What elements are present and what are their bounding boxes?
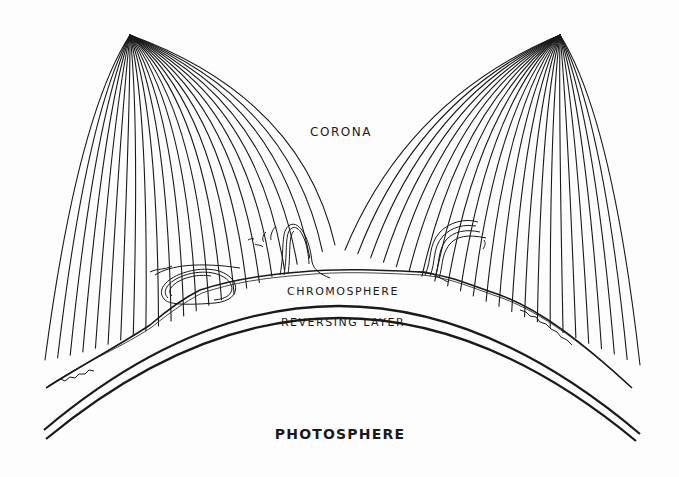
solar-atmosphere-illustration xyxy=(0,0,679,477)
diagram-canvas: CORONA CHROMOSPHERE REVERSING LAYER PHOT… xyxy=(0,0,679,477)
chromosphere-label: CHROMOSPHERE xyxy=(287,285,399,298)
left-coronal-streamer xyxy=(45,35,335,360)
corona-label: CORONA xyxy=(310,125,372,139)
reversing-layer-label: REVERSING LAYER xyxy=(281,316,405,329)
photosphere-label: PHOTOSPHERE xyxy=(275,426,406,442)
